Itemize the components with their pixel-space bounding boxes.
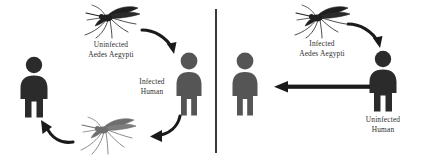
arrow-mosquito-to-uninfected-human: [346, 20, 390, 52]
mosquito-icon-infected: [288, 4, 354, 40]
caption-infected-human: Infected Human: [122, 77, 182, 96]
arrow-infected-human-to-mosquito: [144, 112, 186, 146]
person-icon-left-human: [14, 56, 54, 118]
caption-line-2: Human: [122, 87, 182, 97]
transmission-cycle-diagram: Uninfected Aedes Aegypti Infected Human: [0, 0, 431, 166]
left-panel-human-to-mosquito: Uninfected Aedes Aegypti Infected Human: [0, 0, 216, 166]
arrow-transmission-leftward: [274, 80, 370, 94]
right-panel-mosquito-to-human: Infected Aedes Aegypti Uninfected Human: [216, 0, 431, 166]
caption-uninfected-human: Uninfected Human: [351, 115, 415, 134]
caption-line-1: Infected: [122, 77, 182, 87]
mosquito-icon-infected-bottom: [74, 114, 140, 158]
person-icon-right-panel-left-human: [227, 52, 263, 116]
caption-line-1: Uninfected: [351, 115, 415, 125]
caption-line-2: Human: [351, 125, 415, 135]
arrow-mosquito-to-left-human: [33, 116, 77, 150]
mosquito-icon-uninfected-top: [78, 4, 144, 40]
